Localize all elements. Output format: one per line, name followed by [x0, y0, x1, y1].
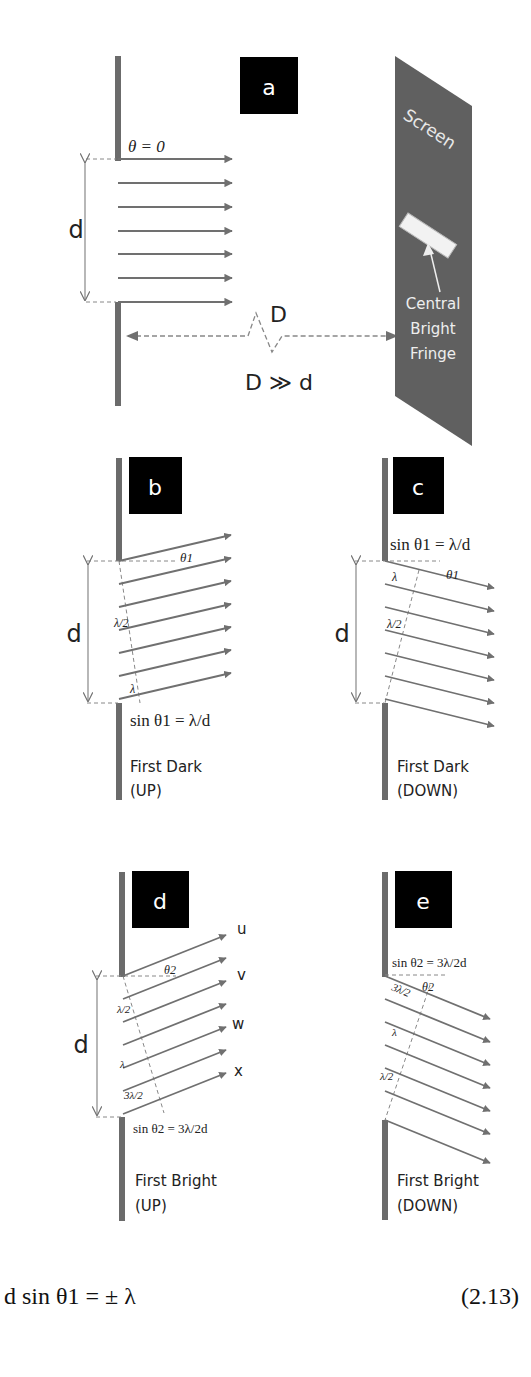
distance-relation: D ≫ d — [245, 370, 313, 395]
badge-label: b — [148, 475, 162, 500]
single-slit-diffraction-diagram: a θ = 0 d D D ≫ d Screen Central Brigh — [0, 0, 531, 1280]
panel-e: e sin θ2 = 3λ/2d θ2 3λ/2 λ λ/2 First Bri… — [379, 871, 490, 1220]
slit-width-label: d — [334, 620, 349, 648]
angle-label: θ2 — [164, 963, 176, 977]
caption-line-2: (DOWN) — [397, 1197, 458, 1215]
half-wavelength-label: λ/2 — [379, 1070, 394, 1082]
angle-label: θ1 — [180, 550, 193, 565]
angle-label: θ2 — [422, 980, 434, 994]
slit-wall-upper — [115, 56, 121, 161]
caption-line-2: (UP) — [135, 1197, 167, 1215]
wavelength-label: λ — [129, 682, 135, 696]
ray-label-w: w — [232, 1015, 244, 1033]
angle-label: θ = 0 — [128, 137, 165, 156]
slit-width-label: d — [66, 620, 81, 648]
slit-width-label: d — [68, 216, 83, 244]
ray-label-v: v — [237, 966, 246, 984]
panel-a: a θ = 0 d D D ≫ d Screen Central Brigh — [68, 56, 472, 446]
wavelength-label: λ — [391, 570, 397, 584]
wavelength-label: λ — [119, 1058, 125, 1070]
fringe-label-line-2: Bright — [410, 320, 456, 338]
badge-label: c — [412, 475, 424, 500]
ray-label-u: u — [237, 920, 247, 938]
caption-line-2: (UP) — [130, 782, 162, 800]
parallel-rays — [118, 159, 232, 302]
slit-width-label: d — [73, 1031, 88, 1059]
caption-line-1: First Dark — [397, 758, 469, 776]
badge-label: d — [153, 889, 167, 914]
caption-line-2: (DOWN) — [397, 782, 458, 800]
wavelength-label: λ — [391, 1026, 397, 1038]
panel-d: d d u v w x θ2 λ/2 λ 3λ/2 sin θ2 = 3λ/2d… — [73, 871, 246, 1221]
badge-label: e — [416, 889, 430, 914]
condition-equation: sin θ1 = λ/d — [390, 535, 471, 554]
ray-label-x: x — [234, 1062, 243, 1080]
fringe-label-line-3: Fringe — [410, 345, 456, 363]
caption-line-1: First Bright — [135, 1172, 217, 1190]
panel-c: c sin θ1 = λ/d d θ1 λ λ/2 First Dark (DO… — [334, 457, 494, 800]
panel-b: b d θ1 λ/2 λ sin θ1 = λ/d First Dark (UP… — [66, 457, 231, 800]
caption-line-1: First Dark — [130, 758, 202, 776]
three-half-wavelength-label: 3λ/2 — [389, 980, 412, 999]
caption-line-1: First Bright — [397, 1172, 479, 1190]
half-wavelength-label: λ/2 — [116, 1003, 131, 1015]
condition-equation: sin θ1 = λ/d — [130, 711, 211, 730]
fringe-label-line-1: Central — [406, 295, 461, 313]
equation-number: (2.13) — [461, 1283, 519, 1310]
distance-line — [128, 313, 390, 352]
badge-label: a — [262, 75, 275, 100]
half-wavelength-label: λ/2 — [386, 617, 402, 631]
condition-equation: sin θ2 = 3λ/2d — [392, 955, 467, 970]
footer-equation-row: d sin θ1 = ± λ (2.13) — [0, 1283, 531, 1323]
angle-label: θ1 — [446, 567, 459, 582]
distance-label: D — [270, 302, 287, 327]
three-half-wavelength-label: 3λ/2 — [123, 1089, 143, 1101]
half-wavelength-label: λ/2 — [113, 616, 129, 630]
footer-equation: d sin θ1 = ± λ — [4, 1283, 136, 1310]
slit-wall-lower — [115, 302, 121, 406]
condition-equation: sin θ2 = 3λ/2d — [133, 1121, 208, 1136]
